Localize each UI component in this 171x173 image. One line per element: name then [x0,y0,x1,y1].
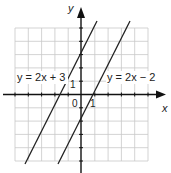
x-axis-arrow-icon [156,91,166,99]
x-axis [3,91,166,99]
line-y-2x-plus-3 [25,21,97,164]
line1-label: y = 2x + 3 [17,71,65,83]
x-tick-1-label: 1 [90,98,96,109]
origin-label: 0 [72,98,78,109]
y-axis-label: y [67,2,75,14]
coordinate-plane: y x 0 1 1 y = 2x + 3 y = 2x − 2 [0,0,171,173]
line2-label: y = 2x − 2 [107,71,155,83]
line-y-2x-minus-2 [58,21,130,164]
x-axis-label: x [161,102,168,114]
y-axis-arrow-icon [77,7,85,18]
y-tick-1-label: 1 [70,79,76,90]
